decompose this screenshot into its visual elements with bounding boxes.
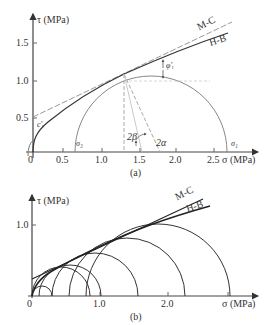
x-tick-a-2-5: 2.5 bbox=[207, 155, 220, 165]
sigma3-label: σ₃ bbox=[76, 140, 83, 148]
x-tick-b-2-0: 2.0 bbox=[161, 299, 174, 309]
c-label: c'ᵢ bbox=[37, 121, 44, 129]
x-tick-b-1-0: 1.0 bbox=[93, 299, 106, 309]
mohr-circle-b-4 bbox=[52, 253, 138, 296]
y-tick-a-1-5: 1.5 bbox=[16, 38, 29, 48]
sigma1-label: σ₁ bbox=[231, 140, 238, 148]
x-tick-b-0: 0 bbox=[27, 299, 32, 309]
x-axis-label-b: σ (MPa) bbox=[222, 299, 255, 309]
x-tick-a-0-5: 0.5 bbox=[56, 155, 69, 165]
x-axis-label-a: σ (MPa) bbox=[222, 155, 255, 165]
x-tick-a-1-0: 1.0 bbox=[95, 155, 108, 165]
x-tick-a-0: 0 bbox=[28, 155, 33, 165]
two-alpha-label: 2α bbox=[156, 138, 166, 148]
y-tick-a-0-5: 0.5 bbox=[16, 113, 29, 123]
y-tick-b-1-0: 1.0 bbox=[16, 220, 29, 230]
mohr-circle-b-2 bbox=[32, 267, 90, 296]
two-beta-label: 2β bbox=[127, 132, 137, 142]
y-tick-a-1-0: 1.0 bbox=[16, 76, 29, 86]
y-axis-label-b: τ (MPa) bbox=[37, 196, 69, 206]
x-tick-a-2-0: 2.0 bbox=[169, 155, 182, 165]
caption-b: (b) bbox=[130, 312, 142, 322]
x-tick-a-1-5: 1.5 bbox=[133, 155, 146, 165]
mohr-circle-b-6 bbox=[86, 224, 230, 296]
mc-envelope-a bbox=[33, 22, 232, 117]
phi-label: φ'ᵢ bbox=[166, 62, 173, 70]
y-axis-label-a: τ (MPa) bbox=[37, 15, 69, 25]
figure-b bbox=[28, 195, 258, 298]
caption-a: (a) bbox=[130, 168, 141, 178]
